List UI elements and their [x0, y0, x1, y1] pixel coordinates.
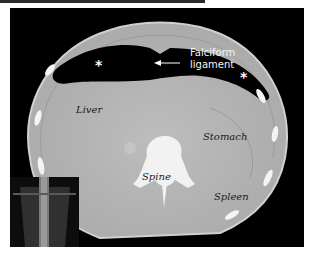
air-marker-right: *: [240, 70, 247, 84]
ct-image-frame: * * Falciform ligament Liver Stomach Spi…: [10, 8, 304, 247]
label-falciform: Falciform: [190, 47, 235, 58]
top-rule: [0, 0, 205, 3]
scout-image-inset: [10, 177, 79, 247]
label-spleen: Spleen: [214, 191, 249, 202]
label-liver: Liver: [76, 104, 102, 115]
label-stomach: Stomach: [203, 131, 247, 142]
label-ligament: ligament: [190, 59, 234, 70]
air-marker-left: *: [95, 58, 102, 72]
label-spine: Spine: [142, 171, 171, 182]
